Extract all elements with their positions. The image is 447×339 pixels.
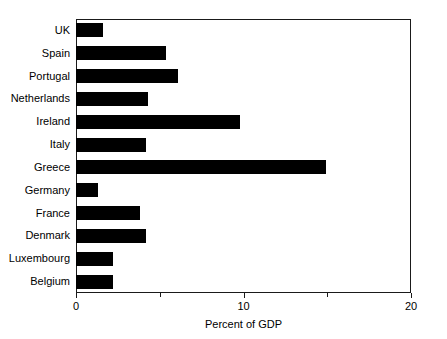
category-label-row: Spain: [0, 42, 70, 65]
category-label: Portugal: [29, 71, 70, 82]
category-label: Denmark: [25, 230, 70, 241]
x-axis-minor-tick: [327, 293, 328, 297]
category-label-row: France: [0, 202, 70, 225]
category-label-row: Greece: [0, 156, 70, 179]
x-axis-tick-label: 20: [405, 300, 417, 312]
category-label: Italy: [50, 139, 70, 150]
category-label-row: Luxembourg: [0, 247, 70, 270]
x-axis-title: Percent of GDP: [76, 318, 411, 330]
category-label: UK: [55, 25, 70, 36]
x-axis-tick-label: 10: [237, 300, 249, 312]
category-label: Germany: [25, 185, 70, 196]
category-label-row: Germany: [0, 179, 70, 202]
category-label: Belgium: [30, 276, 70, 287]
x-axis-tick: [76, 293, 77, 298]
category-label-row: Netherlands: [0, 87, 70, 110]
category-label-row: Belgium: [0, 270, 70, 293]
category-label-row: Portugal: [0, 65, 70, 88]
category-label: Ireland: [36, 116, 70, 127]
x-axis-tick: [411, 293, 412, 298]
x-axis-minor-tick: [160, 293, 161, 297]
category-label-row: Denmark: [0, 224, 70, 247]
category-axis-labels: UKSpainPortugalNetherlandsIrelandItalyGr…: [0, 19, 70, 293]
x-axis-tick: [244, 293, 245, 298]
category-label: Greece: [34, 162, 70, 173]
category-label: Netherlands: [11, 93, 70, 104]
x-axis-tick-label: 0: [73, 300, 79, 312]
plot-area-frame: [76, 19, 411, 293]
category-label: Spain: [42, 48, 70, 59]
category-label: Luxembourg: [9, 253, 70, 264]
category-label-row: Ireland: [0, 110, 70, 133]
category-label-row: Italy: [0, 133, 70, 156]
category-label-row: UK: [0, 19, 70, 42]
bar-chart: UKSpainPortugalNetherlandsIrelandItalyGr…: [0, 0, 447, 339]
category-label: France: [36, 208, 70, 219]
